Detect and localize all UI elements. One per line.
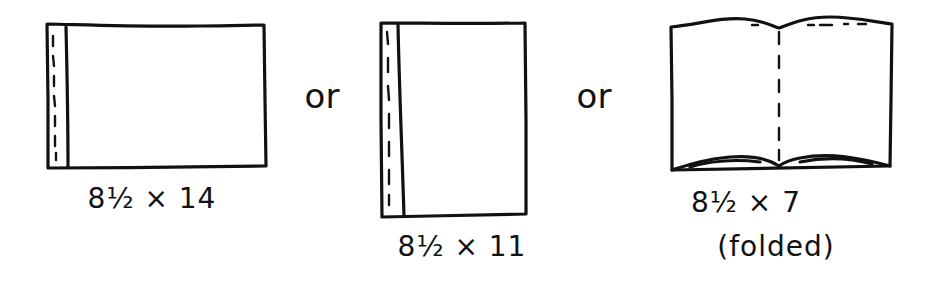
landscape-page-outline: [47, 24, 266, 168]
portrait-page: [381, 23, 526, 217]
folded-note-label: (folded): [717, 230, 834, 263]
or-separator-1: or: [305, 76, 340, 116]
book-bottom-edge: [672, 166, 890, 170]
folded-size-label: 8½ × 7: [691, 186, 801, 219]
landscape-stitch-line: [53, 36, 56, 160]
landscape-page: [47, 24, 266, 168]
portrait-binding-edge: [398, 24, 404, 216]
landscape-binding-edge: [66, 27, 68, 167]
portrait-stitch-line: [387, 32, 389, 205]
or-separator-2: or: [577, 76, 612, 116]
book-outline: [671, 17, 892, 170]
landscape-size-label: 8½ × 14: [88, 182, 217, 215]
portrait-size-label: 8½ × 11: [398, 230, 527, 263]
folded-book: [671, 17, 892, 170]
